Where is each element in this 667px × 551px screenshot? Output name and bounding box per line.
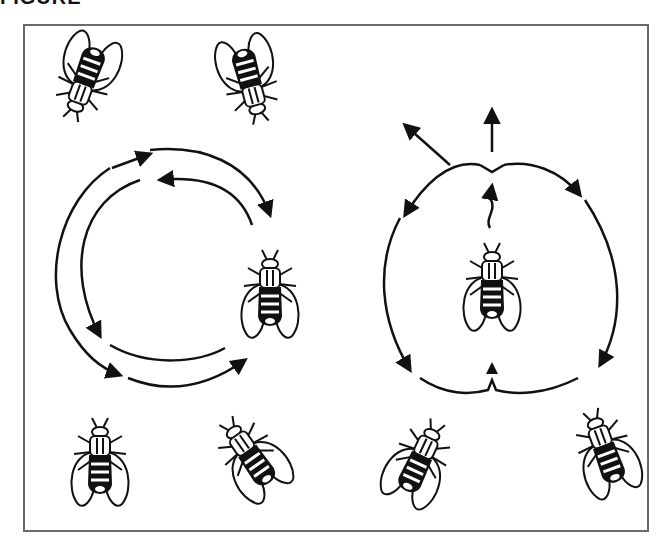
fly-center bbox=[463, 243, 520, 331]
escape-arrows bbox=[384, 110, 617, 393]
fly-bottom-left-right-panel bbox=[375, 410, 464, 514]
small-up-triangle-icon bbox=[486, 362, 498, 374]
fly-top-right bbox=[211, 30, 289, 130]
fly-bottom-left bbox=[71, 418, 128, 506]
fly-right bbox=[241, 250, 298, 338]
left-panel bbox=[44, 27, 300, 509]
fly-behavior-diagram bbox=[0, 0, 667, 551]
inner-circular-arrow bbox=[81, 179, 252, 360]
fly-bottom-right-right-panel bbox=[564, 401, 648, 503]
right-panel bbox=[375, 110, 648, 514]
fly-bottom-right bbox=[203, 404, 300, 509]
outer-circular-arrow bbox=[56, 149, 270, 386]
fly-top-left bbox=[44, 27, 128, 129]
